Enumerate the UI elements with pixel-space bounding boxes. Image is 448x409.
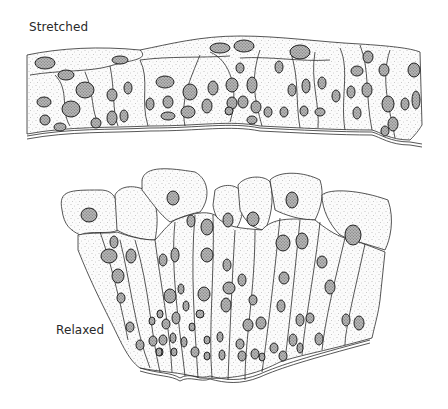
stretched-panel [27, 36, 422, 147]
epithelium-illustration [0, 0, 448, 409]
relaxed-panel [61, 169, 391, 383]
